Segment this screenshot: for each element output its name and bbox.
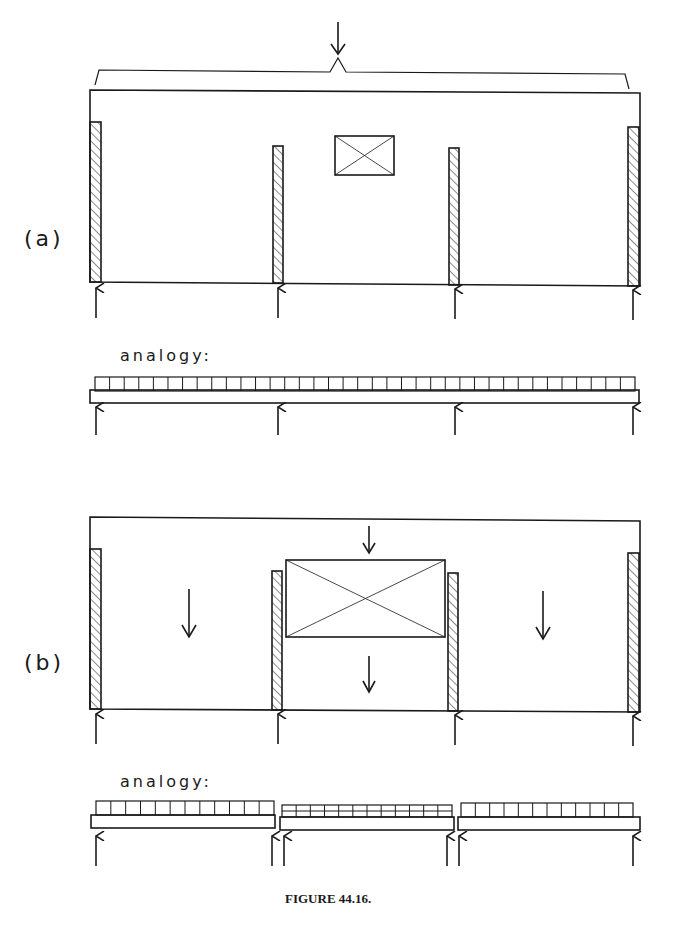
load-brace xyxy=(95,58,629,89)
part-a-panel xyxy=(90,22,640,320)
analogy-a-beam xyxy=(90,377,639,435)
figure-canvas xyxy=(0,0,678,931)
opening-small xyxy=(335,136,394,175)
opening-large xyxy=(286,560,445,637)
part-b-label: (b) xyxy=(24,650,64,675)
analogy-b-label: analogy: xyxy=(120,772,212,791)
analogy-a-label: analogy: xyxy=(120,346,212,365)
figure-caption: FIGURE 44.16. xyxy=(285,891,371,907)
support-arrows-icon xyxy=(96,288,633,320)
load-arrows-icon xyxy=(182,526,550,692)
analogy-b-beams xyxy=(91,801,640,866)
part-b-panel xyxy=(90,517,640,746)
load-arrow-icon xyxy=(331,22,345,54)
part-a-label: (a) xyxy=(24,226,64,251)
support-arrows-icon xyxy=(96,714,633,746)
